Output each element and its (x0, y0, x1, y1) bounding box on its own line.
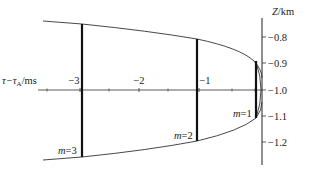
z-axis-label: Z/km (272, 6, 294, 17)
tau-axis-label: τ−τA/ms (2, 75, 37, 88)
tau-tick-label: −3 (68, 75, 79, 86)
mode-label: m=3 (58, 145, 77, 156)
tau-tick-label: −1 (199, 75, 210, 86)
z-tick-label: −0.9 (268, 58, 287, 69)
tau-tick-label: −2 (133, 75, 144, 86)
z-tick-label: −1.2 (268, 137, 287, 148)
mode-lines: m=3m=2m=1 (58, 24, 256, 157)
mode-label: m=2 (174, 130, 193, 141)
mode-label: m=1 (233, 108, 252, 119)
tau-axis-ticks: −3−2−1 (47, 75, 255, 92)
tau-axis: −3−2−1 τ−τA/ms (2, 75, 262, 92)
z-axis: −0.8−0.9−1.0−1.1−1.2 Z/km (262, 6, 294, 165)
z-tick-label: −1.0 (268, 85, 287, 96)
mode-envelope-diagram: −3−2−1 τ−τA/ms m=3m=2m=1 −0.8−0.9−1.0−1.… (0, 0, 313, 176)
upper-envelope-curve (43, 21, 262, 78)
z-tick-label: −1.1 (268, 111, 287, 122)
z-axis-ticks: −0.8−0.9−1.0−1.1−1.2 (262, 32, 287, 148)
z-tick-label: −0.8 (268, 32, 287, 43)
